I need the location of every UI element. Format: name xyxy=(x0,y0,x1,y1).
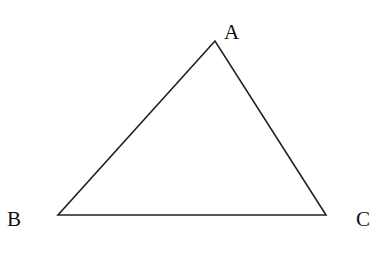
vertex-label-b: B xyxy=(7,207,21,231)
vertex-label-c: C xyxy=(356,207,370,231)
vertex-label-a: A xyxy=(224,20,240,44)
triangle-diagram: A B C xyxy=(0,0,372,256)
triangle-abc xyxy=(58,41,326,215)
